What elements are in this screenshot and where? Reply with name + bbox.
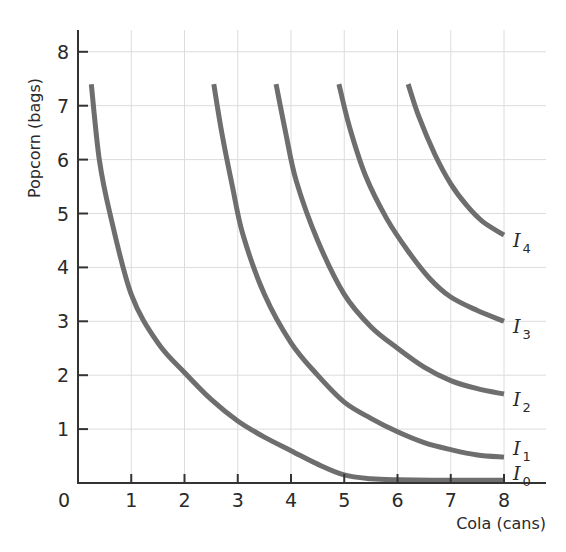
y-tick-label: 7 <box>57 95 69 117</box>
y-tick-label: 5 <box>57 203 69 225</box>
y-tick-label: 4 <box>57 256 69 278</box>
x-tick-label: 1 <box>125 489 137 511</box>
curve-label-i0: I0 <box>512 462 531 489</box>
y-axis-title: Popcorn (bags) <box>25 78 44 198</box>
curve-i2 <box>276 84 504 394</box>
axes <box>77 30 546 484</box>
curve-i1 <box>214 84 504 457</box>
x-axis-title: Cola (cans) <box>456 514 546 533</box>
x-tick-label: 4 <box>285 489 297 511</box>
x-tick-label: 2 <box>178 489 190 511</box>
y-tick-label: 3 <box>57 310 69 332</box>
y-tick-label: 1 <box>57 418 69 440</box>
x-tick-label: 8 <box>498 489 510 511</box>
curve-label-i2: I2 <box>512 388 531 415</box>
x-tick-label: 0 <box>58 489 70 511</box>
x-tick-label: 7 <box>445 489 457 511</box>
curve-labels: I0I1I2I3I4 <box>512 229 531 489</box>
gridlines <box>78 30 546 483</box>
indifference-curve-chart: 01234567812345678 Popcorn (bags) Cola (c… <box>0 0 566 552</box>
x-tick-label: 3 <box>232 489 244 511</box>
x-tick-label: 6 <box>391 489 403 511</box>
x-tick-label: 5 <box>338 489 350 511</box>
y-tick-label: 8 <box>57 41 69 63</box>
curve-label-i1: I1 <box>512 437 531 464</box>
y-tick-label: 2 <box>57 364 69 386</box>
curve-i0 <box>91 84 504 480</box>
curve-label-i3: I3 <box>512 315 531 342</box>
curves <box>91 84 504 480</box>
curve-label-i4: I4 <box>512 229 531 256</box>
y-tick-label: 6 <box>57 149 69 171</box>
